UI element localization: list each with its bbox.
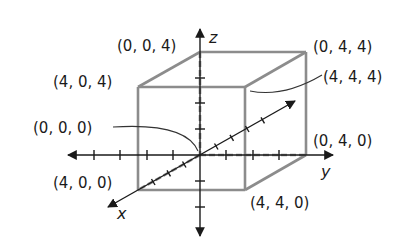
vertex-label-0-0-4: (0, 0, 4) [117, 37, 176, 55]
vertex-label-4-0-4: (4, 0, 4) [53, 73, 112, 91]
vertex-label-4-0-0: (4, 0, 0) [53, 174, 112, 192]
cube-edge-bottom-right [245, 155, 306, 190]
x-axis-label: x [116, 204, 127, 223]
cube-coordinate-diagram: z y x (0, 0, 4) (0, 4, 4) (4, 0, 4) (4, … [0, 0, 415, 246]
cube-edge-top-right [245, 52, 306, 87]
vertex-label-4-4-4: (4, 4, 4) [323, 68, 382, 86]
vertex-label-0-0-0: (0, 0, 0) [33, 119, 92, 137]
vertex-label-0-4-0: (0, 4, 0) [313, 132, 372, 150]
cube [138, 52, 306, 190]
vertex-label-0-4-4: (0, 4, 4) [313, 38, 372, 56]
z-axis-label: z [208, 28, 218, 47]
vertex-label-4-4-0: (4, 4, 0) [250, 194, 309, 212]
y-axis-label: y [320, 162, 331, 181]
leader-origin [113, 126, 198, 151]
cube-edge-top-left [138, 52, 200, 87]
